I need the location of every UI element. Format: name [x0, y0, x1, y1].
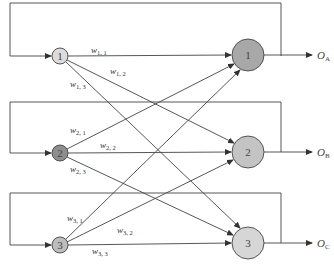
svg-text:1: 1 [245, 49, 251, 61]
input-node-2: 2 [52, 145, 68, 161]
svg-text:2: 2 [245, 146, 251, 158]
diagram-canvas: 1 2 3 1 2 3 OA OB OC w1, 1 w1, 2 w1, 3 [0, 0, 334, 265]
svg-text:2: 2 [57, 147, 63, 159]
weight-label-w23: w2, 3 [70, 164, 86, 175]
output-node-3: 3 [232, 227, 264, 259]
input-node-3: 3 [52, 237, 68, 253]
weight-label-w31: w3, 1 [67, 213, 83, 224]
edge-w13 [66, 62, 240, 228]
output-node-1: 1 [232, 39, 264, 71]
edge-w23 [67, 157, 233, 235]
weight-label-w11: w1, 1 [91, 45, 107, 56]
edge-w21 [67, 64, 234, 149]
svg-text:3: 3 [245, 237, 251, 249]
edge-w31 [66, 70, 240, 239]
weight-label-w21: w2, 1 [70, 125, 86, 136]
output-label-a: OA [317, 49, 330, 63]
edge-w22 [68, 152, 231, 153]
svg-text:3: 3 [57, 239, 63, 251]
output-label-b: OB [317, 146, 330, 160]
weight-label-w33: w3, 3 [92, 246, 108, 257]
weight-label-w32: w3, 2 [117, 225, 133, 236]
edge-w33 [68, 243, 231, 245]
output-label-c: OC [317, 237, 330, 251]
svg-text:1: 1 [57, 50, 63, 62]
output-node-2: 2 [232, 136, 264, 168]
edge-w11 [68, 55, 231, 56]
weight-label-w13: w1, 3 [70, 79, 86, 90]
weight-label-w12: w1, 2 [110, 66, 126, 77]
weight-label-w22: w2, 2 [100, 140, 116, 151]
edge-w32 [67, 160, 233, 242]
edge-w12 [67, 60, 234, 143]
network-diagram: 1 2 3 1 2 3 OA OB OC w1, 1 w1, 2 w1, 3 [0, 0, 334, 265]
input-node-1: 1 [52, 48, 68, 64]
